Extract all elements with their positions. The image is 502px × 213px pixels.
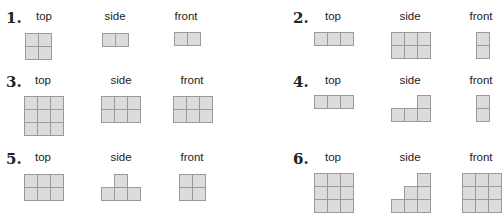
cube-face-cell: [327, 186, 341, 200]
view-label-side: side: [399, 151, 420, 163]
cube-face-cell: [173, 96, 187, 110]
cube-face-cell: [50, 122, 64, 136]
cube-face-cell: [340, 199, 354, 213]
view-label-front: front: [174, 10, 197, 22]
view-label-side: side: [399, 74, 420, 86]
cube-face-cell: [179, 187, 193, 201]
problem-number: 5.: [6, 150, 22, 168]
cube-face-cell: [476, 45, 490, 59]
cube-face-cell: [327, 95, 341, 109]
cube-face-cell: [327, 32, 341, 46]
view-label-side: side: [110, 151, 131, 163]
problem-number: 1.: [6, 9, 22, 27]
cube-face-cell: [404, 45, 418, 59]
cube-face-cell: [24, 174, 38, 188]
cube-face-cell: [462, 199, 476, 213]
cube-face-cell: [115, 33, 129, 47]
cube-face-cell: [314, 95, 328, 109]
cube-face-cell: [476, 32, 490, 46]
cube-face-cell: [417, 108, 431, 122]
cube-face-cell: [187, 32, 201, 46]
cube-face-cell: [475, 186, 489, 200]
cube-face-cell: [462, 173, 476, 187]
cube-face-cell: [50, 187, 64, 201]
cube-face-cell: [24, 96, 38, 110]
cube-face-cell: [314, 199, 328, 213]
cube-face-cell: [50, 174, 64, 188]
cube-face-cell: [417, 186, 431, 200]
cube-face-cell: [25, 33, 39, 47]
view-label-top: top: [325, 74, 341, 86]
view-label-side: side: [104, 10, 125, 22]
cube-face-cell: [475, 199, 489, 213]
cube-face-cell: [340, 173, 354, 187]
cube-face-cell: [114, 187, 128, 201]
cube-face-cell: [37, 122, 51, 136]
view-label-top: top: [325, 10, 341, 22]
cube-face-cell: [476, 95, 490, 109]
view-label-top: top: [35, 74, 51, 86]
problem-number: 3.: [6, 73, 22, 91]
cube-face-cell: [314, 173, 328, 187]
cube-face-cell: [114, 174, 128, 188]
cube-face-cell: [102, 33, 116, 47]
cube-face-cell: [127, 109, 141, 123]
cube-face-cell: [174, 32, 188, 46]
cube-face-cell: [476, 108, 490, 122]
cube-face-cell: [37, 109, 51, 123]
cube-face-cell: [50, 109, 64, 123]
cube-face-cell: [391, 32, 405, 46]
cube-face-cell: [391, 199, 405, 213]
cube-face-cell: [417, 32, 431, 46]
cube-face-cell: [404, 186, 418, 200]
view-label-front: front: [180, 151, 203, 163]
view-label-front: front: [469, 151, 492, 163]
cube-face-cell: [114, 96, 128, 110]
view-label-top: top: [325, 151, 341, 163]
cube-face-cell: [404, 32, 418, 46]
cube-face-cell: [488, 173, 502, 187]
view-label-front: front: [469, 74, 492, 86]
cube-face-cell: [340, 95, 354, 109]
cube-face-cell: [404, 108, 418, 122]
problem-number: 2.: [293, 9, 309, 27]
cube-face-cell: [101, 187, 115, 201]
cube-face-cell: [417, 95, 431, 109]
cube-face-cell: [340, 186, 354, 200]
cube-face-cell: [199, 109, 213, 123]
cube-face-cell: [114, 109, 128, 123]
view-label-side: side: [399, 10, 420, 22]
cube-face-cell: [199, 96, 213, 110]
cube-face-cell: [327, 199, 341, 213]
cube-face-cell: [462, 186, 476, 200]
problem-number: 6.: [293, 150, 309, 168]
cube-face-cell: [340, 32, 354, 46]
view-label-top: top: [36, 10, 52, 22]
cube-face-cell: [417, 45, 431, 59]
cube-face-cell: [475, 173, 489, 187]
cube-face-cell: [50, 96, 64, 110]
cube-face-cell: [404, 199, 418, 213]
cube-face-cell: [417, 199, 431, 213]
cube-face-cell: [24, 187, 38, 201]
cube-face-cell: [38, 33, 52, 47]
problem-number: 4.: [293, 73, 309, 91]
cube-face-cell: [37, 187, 51, 201]
cube-face-cell: [127, 96, 141, 110]
cube-face-cell: [179, 174, 193, 188]
cube-face-cell: [488, 199, 502, 213]
cube-face-cell: [314, 186, 328, 200]
cube-face-cell: [314, 32, 328, 46]
cube-face-cell: [173, 109, 187, 123]
cube-face-cell: [37, 96, 51, 110]
cube-face-cell: [488, 186, 502, 200]
cube-face-cell: [186, 96, 200, 110]
cube-face-cell: [101, 96, 115, 110]
cube-face-cell: [24, 109, 38, 123]
cube-face-cell: [101, 109, 115, 123]
view-label-front: front: [469, 10, 492, 22]
cube-face-cell: [24, 122, 38, 136]
cube-face-cell: [186, 109, 200, 123]
cube-face-cell: [38, 46, 52, 60]
view-label-top: top: [35, 151, 51, 163]
